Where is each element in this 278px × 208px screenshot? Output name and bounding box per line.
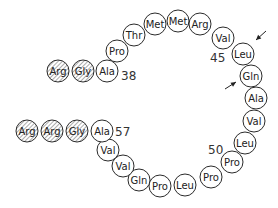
position-number: 50: [208, 143, 223, 157]
residue-val: Val: [212, 27, 234, 49]
lower-chain: ArgArgGly: [16, 120, 88, 142]
residue-label: Met: [169, 16, 188, 27]
residue-label: Val: [101, 145, 116, 156]
residue-label: Val: [247, 116, 262, 127]
residue-label: Leu: [234, 49, 252, 60]
residue-label: Thr: [125, 30, 143, 41]
residue-label: Gln: [131, 175, 148, 186]
residue-met: Met: [167, 10, 189, 32]
residue-label: Gly: [75, 66, 92, 77]
residue-label: Ala: [248, 93, 264, 104]
residue-label: Val: [116, 161, 131, 172]
residue-label: Pro: [152, 181, 168, 192]
residue-leu: Leu: [234, 132, 256, 154]
residue-pro: Pro: [200, 166, 222, 188]
residue-label: Arg: [49, 66, 66, 77]
residue-label: Val: [216, 33, 231, 44]
residue-label: Pro: [224, 157, 240, 168]
residue-ala: Ala: [96, 60, 118, 82]
residue-gln: Gln: [240, 65, 262, 87]
residue-arg-shaded: Arg: [47, 60, 69, 82]
residue-ala: Ala: [91, 120, 113, 142]
residue-pro: Pro: [221, 151, 243, 173]
residue-ala: Ala: [245, 87, 267, 109]
position-number: 57: [115, 125, 130, 139]
upper-chain: ArgGlyAlaProThrMetMetArgValLeuGlnAlaValL…: [47, 10, 267, 197]
peptide-sequence-diagram: ArgGlyAlaProThrMetMetArgValLeuGlnAlaValL…: [0, 0, 278, 208]
position-number: 45: [210, 51, 225, 65]
arrow-gln-icon: [225, 82, 236, 89]
residue-label: Pro: [109, 46, 125, 57]
residue-arg-shaded: Arg: [41, 120, 63, 142]
residue-label: Arg: [18, 126, 35, 137]
position-label-layer: 38455057: [115, 51, 225, 157]
residue-label: Met: [146, 19, 165, 30]
arrow-leu-icon: [256, 31, 266, 40]
residue-label: Pro: [203, 172, 219, 183]
residue-pro: Pro: [149, 175, 171, 197]
residue-met: Met: [144, 13, 166, 35]
residue-label: Leu: [236, 138, 254, 149]
residue-label: Ala: [94, 126, 110, 137]
residue-val: Val: [243, 110, 265, 132]
residue-gly-shaded: Gly: [72, 60, 94, 82]
residue-label: Gly: [69, 126, 86, 137]
position-number: 38: [121, 69, 136, 83]
residue-arg-shaded: Arg: [16, 120, 38, 142]
residue-label: Gln: [243, 71, 260, 82]
residue-arg: Arg: [189, 13, 211, 35]
residue-label: Arg: [43, 126, 60, 137]
residue-thr: Thr: [123, 24, 145, 46]
residue-leu: Leu: [232, 43, 254, 65]
residue-label: Ala: [99, 66, 115, 77]
residue-label: Arg: [191, 19, 208, 30]
residue-pro: Pro: [106, 40, 128, 62]
residue-gly-shaded: Gly: [66, 120, 88, 142]
residue-leu: Leu: [174, 174, 196, 196]
residue-label: Leu: [176, 180, 194, 191]
residue-layer: ArgGlyAlaProThrMetMetArgValLeuGlnAlaValL…: [16, 10, 267, 197]
